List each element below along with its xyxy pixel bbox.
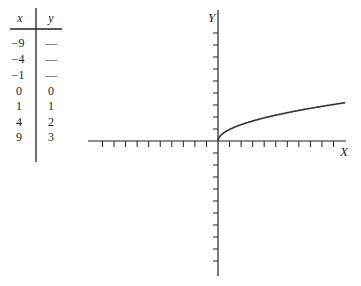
coordinate-plane: Y X	[0, 0, 361, 286]
sqrt-curve	[218, 103, 345, 141]
axes	[88, 10, 346, 276]
y-axis-label: Y	[208, 10, 217, 25]
x-axis-label: X	[339, 144, 349, 159]
y-axis-ticks	[213, 33, 218, 261]
